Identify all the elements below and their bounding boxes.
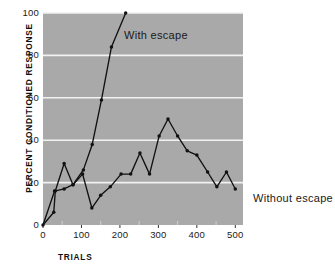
x-tick-0: 0 [23, 230, 63, 240]
x-tick-500: 500 [215, 230, 255, 240]
y-tick-100: 100 [13, 8, 39, 18]
y-tick-0: 0 [13, 220, 39, 230]
series-layer [41, 11, 237, 227]
y-axis-title: PERCENT CONDITIONED RESPONSE [24, 18, 34, 198]
x-tick-100: 100 [61, 230, 101, 240]
series-label-without-escape: Without escape [253, 192, 333, 204]
chart-figure: 100806040200 0100200300400500 PERCENT CO… [0, 0, 335, 274]
x-axis-title: TRIALS [58, 252, 92, 262]
x-minor-ticks-group [62, 221, 216, 225]
x-tick-200: 200 [100, 230, 140, 240]
series-without-escape [41, 117, 237, 227]
x-axis-tick-labels: 0100200300400500 [43, 230, 243, 244]
series-label-with-escape: With escape [124, 29, 188, 41]
x-major-ticks-group [43, 225, 235, 228]
x-tick-300: 300 [138, 230, 178, 240]
x-tick-400: 400 [177, 230, 217, 240]
